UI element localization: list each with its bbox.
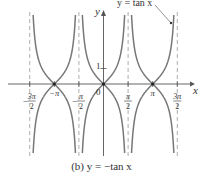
x-tick-label: π bbox=[151, 88, 156, 98]
x-tick-label-minus: − bbox=[72, 96, 77, 106]
figure-caption: (b) y = −tan x bbox=[0, 160, 203, 172]
x-tick-label-numerator: π bbox=[126, 92, 131, 101]
x-axis-label: x bbox=[192, 84, 198, 96]
annotation-arrow-tip bbox=[170, 22, 172, 24]
y-axis-arrow-icon bbox=[101, 10, 106, 16]
x-tick-label-denominator: 2 bbox=[30, 102, 34, 111]
origin-label: 0 bbox=[96, 87, 101, 97]
zero-point-dot bbox=[102, 82, 105, 85]
tan-annotation-label: y = tan x bbox=[117, 0, 152, 8]
tan-graph-figure: −3π2−π−π2π2π3π2 y x 0 1 y = tan x bbox=[0, 0, 203, 179]
y-tick-label-1: 1 bbox=[96, 61, 101, 71]
x-tick-label-numerator: π bbox=[79, 92, 84, 101]
x-tick-label-denominator: 2 bbox=[79, 102, 83, 111]
x-tick-label-denominator: 2 bbox=[175, 102, 179, 111]
y-axis-label: y bbox=[94, 5, 100, 17]
zero-point-dot bbox=[151, 82, 154, 85]
x-tick-label-denominator: 2 bbox=[126, 102, 130, 111]
x-tick-label: −π bbox=[49, 88, 60, 98]
x-tick-label-numerator: 3π bbox=[27, 92, 37, 101]
annotation-leader-line bbox=[155, 5, 171, 23]
x-tick-label-numerator: 3π bbox=[172, 92, 182, 101]
zero-point-dot bbox=[53, 82, 56, 85]
